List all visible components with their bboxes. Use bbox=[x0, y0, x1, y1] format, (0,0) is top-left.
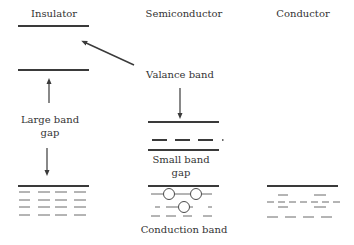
small-band-gap-label-line2: gap bbox=[145, 167, 217, 179]
large-band-gap-label-line2: gap bbox=[14, 127, 86, 139]
large-band-gap-label-line1: Large band bbox=[14, 114, 86, 126]
semiconductor-title: Semiconductor bbox=[134, 8, 234, 20]
valance-band-label: Valance band bbox=[139, 69, 221, 81]
valance-pointer-arrow-icon bbox=[84, 42, 134, 65]
insulator-title: Insulator bbox=[18, 8, 90, 20]
conductor-bands bbox=[267, 186, 340, 217]
small-band-gap-label-line1: Small band bbox=[145, 154, 217, 166]
insulator-electron-levels bbox=[19, 192, 86, 215]
hole-circle-icons bbox=[164, 189, 202, 213]
conduction-band-label: Conduction band bbox=[136, 224, 232, 236]
conductor-title: Conductor bbox=[268, 8, 338, 20]
band-gap-diagram: Insulator Semiconductor Conductor Valanc… bbox=[0, 0, 354, 245]
conductor-electron-levels bbox=[267, 195, 340, 217]
semiconductor-bands bbox=[148, 88, 224, 216]
